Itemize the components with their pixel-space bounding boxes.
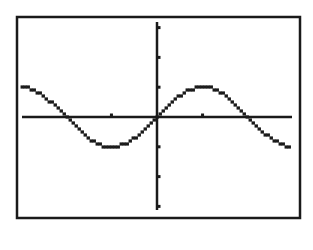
- curve-pixel: [102, 145, 105, 148]
- curve-pixel: [84, 133, 87, 136]
- x-tick-mark: [201, 114, 204, 118]
- curve-pixel: [60, 109, 63, 112]
- curve-pixel: [195, 85, 198, 88]
- curve-pixel: [288, 145, 291, 148]
- curve-pixel: [69, 118, 72, 121]
- curve-pixel: [273, 139, 276, 142]
- curve-pixel: [177, 94, 180, 97]
- y-tick-mark: [157, 86, 161, 89]
- curve-pixel: [132, 136, 135, 139]
- curve-pixel: [150, 121, 153, 124]
- curve-pixel: [279, 142, 282, 145]
- curve-pixel: [228, 97, 231, 100]
- curve-pixel: [114, 145, 117, 148]
- curve-pixel: [225, 94, 228, 97]
- curve-pixel: [27, 85, 30, 88]
- curve-pixel: [189, 88, 192, 91]
- curve-pixel: [39, 91, 42, 94]
- curve-pixel: [111, 145, 114, 148]
- curve-pixel: [129, 139, 132, 142]
- curve-pixel: [30, 88, 33, 91]
- curve-pixel: [66, 115, 69, 118]
- curve-pixel: [147, 124, 150, 127]
- curve-pixel: [237, 106, 240, 109]
- curve-pixel: [249, 118, 252, 121]
- curve-pixel: [222, 91, 225, 94]
- curve-pixel: [213, 88, 216, 91]
- curve-pixel: [216, 88, 219, 91]
- curve-pixel: [159, 112, 162, 115]
- curve-pixel: [246, 115, 249, 118]
- curve-pixel: [240, 109, 243, 112]
- curve-pixel: [45, 97, 48, 100]
- curve-pixel: [252, 121, 255, 124]
- y-tick-mark: [157, 175, 161, 178]
- curve-pixel: [42, 94, 45, 97]
- curve-pixel: [234, 103, 237, 106]
- curve-pixel: [168, 103, 171, 106]
- curve-pixel: [21, 85, 24, 88]
- x-tick-mark: [110, 114, 113, 118]
- curve-pixel: [99, 142, 102, 145]
- curve-pixel: [63, 112, 66, 115]
- curve-pixel: [210, 85, 213, 88]
- curve-pixel: [183, 91, 186, 94]
- curve-pixel: [93, 139, 96, 142]
- curve-pixel: [231, 100, 234, 103]
- curve-pixel: [57, 106, 60, 109]
- curve-pixel: [198, 85, 201, 88]
- curve-pixel: [255, 124, 258, 127]
- curve-pixel: [162, 109, 165, 112]
- curve-pixel: [78, 127, 81, 130]
- curve-pixel: [126, 142, 129, 145]
- curve-pixel: [117, 145, 120, 148]
- y-tick-mark: [157, 205, 161, 208]
- curve-pixel: [261, 130, 264, 133]
- curve-pixel: [219, 91, 222, 94]
- curve-pixel: [264, 133, 267, 136]
- curve-pixel: [243, 112, 246, 115]
- curve-pixel: [156, 115, 159, 118]
- curve-pixel: [87, 136, 90, 139]
- curve-pixel: [75, 124, 78, 127]
- curve-pixel: [72, 121, 75, 124]
- curve-pixel: [165, 106, 168, 109]
- curve-pixel: [153, 118, 156, 121]
- curve-pixel: [123, 142, 126, 145]
- curve-pixel: [51, 100, 54, 103]
- curve-pixel: [192, 88, 195, 91]
- curve-pixel: [204, 85, 207, 88]
- curve-pixel: [267, 133, 270, 136]
- curve-pixel: [186, 88, 189, 91]
- curve-pixel: [171, 100, 174, 103]
- curve-pixel: [144, 127, 147, 130]
- curve-pixel: [90, 139, 93, 142]
- curve-pixel: [96, 142, 99, 145]
- curve-pixel: [54, 103, 57, 106]
- curve-pixel: [120, 142, 123, 145]
- curve-pixel: [33, 88, 36, 91]
- curve-pixel: [81, 130, 84, 133]
- y-tick-mark: [157, 26, 161, 29]
- curve-pixel: [207, 85, 210, 88]
- curve-pixel: [270, 136, 273, 139]
- curve-pixel: [180, 94, 183, 97]
- curve-pixel: [138, 133, 141, 136]
- curve-pixel: [276, 139, 279, 142]
- curve-pixel: [135, 136, 138, 139]
- y-tick-mark: [157, 56, 161, 59]
- curve-pixel: [48, 100, 51, 103]
- curve-pixel: [36, 91, 39, 94]
- curve-pixel: [201, 85, 204, 88]
- y-tick-mark: [157, 145, 161, 148]
- curve-pixel: [141, 130, 144, 133]
- curve-pixel: [105, 145, 108, 148]
- curve-pixel: [282, 142, 285, 145]
- curve-pixel: [174, 97, 177, 100]
- curve-pixel: [285, 145, 288, 148]
- curve-pixel: [108, 145, 111, 148]
- curve-pixel: [24, 85, 27, 88]
- calculator-graph-screen: [0, 0, 313, 250]
- curve-pixel: [258, 127, 261, 130]
